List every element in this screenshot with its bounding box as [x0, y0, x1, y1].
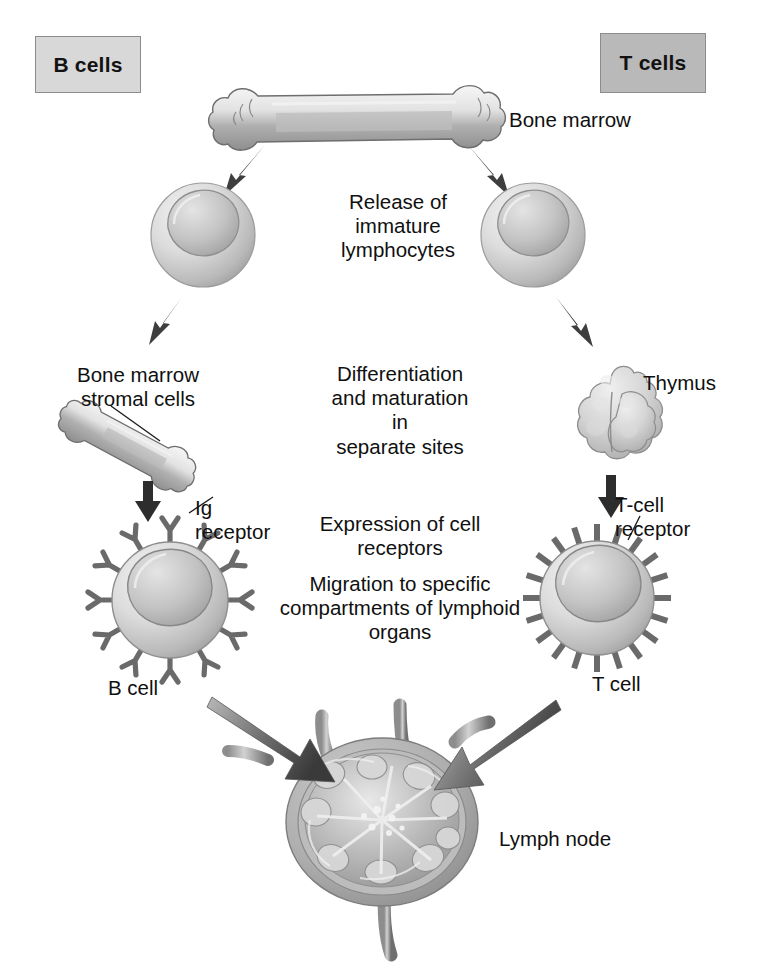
label-t-cell: T cell: [592, 672, 641, 696]
column-header-t-cells[interactable]: T cells: [600, 33, 706, 93]
label-lymph-node: Lymph node: [499, 827, 611, 851]
label-bone-marrow-stromal-cells: Bone marrow stromal cells: [43, 363, 233, 411]
label-tcell-receptor: T-cell receptor: [615, 493, 745, 541]
flow-arrow-right-to-thymus: [556, 297, 593, 347]
label-release-immature-lymphocytes: Release of immature lymphocytes: [298, 190, 498, 263]
label-bone-marrow: Bone marrow: [509, 108, 631, 132]
flow-arrow-bone-to-left-lymphocyte: [224, 145, 265, 196]
label-migration-to-specific-compartments: Migration to specific compartments of ly…: [255, 572, 545, 645]
flow-arrow-tcell-to-lymphnode: [434, 700, 561, 790]
immature-lymphocyte-icon-left: [151, 183, 255, 287]
label-b-cell: B cell: [108, 676, 158, 700]
lymph-vessels: [228, 705, 489, 955]
illustration-layer: [0, 0, 762, 972]
flow-arrow-bone-to-right-lymphocyte: [468, 145, 509, 196]
label-differentiation-maturation: Differentiation and maturation in separa…: [300, 362, 500, 459]
lymph-node-cross-section-icon: [228, 705, 489, 955]
diagram-canvas: B cells T cells Bone marrow Release of i…: [0, 0, 762, 972]
flow-arrow-bcell-to-lymphnode: [207, 697, 335, 782]
column-header-b-cells[interactable]: B cells: [35, 36, 141, 93]
long-bone-icon: [209, 86, 506, 151]
label-expression-of-cell-receptors: Expression of cell receptors: [300, 512, 500, 560]
t-cell-with-tcr-receptors-icon: [523, 524, 671, 672]
flow-arrow-left-to-stroma: [149, 297, 182, 345]
flow-arrow-stroma-to-bcell: [135, 481, 161, 522]
label-thymus: Thymus: [643, 371, 716, 395]
label-ig-receptor: Ig receptor: [195, 496, 315, 544]
